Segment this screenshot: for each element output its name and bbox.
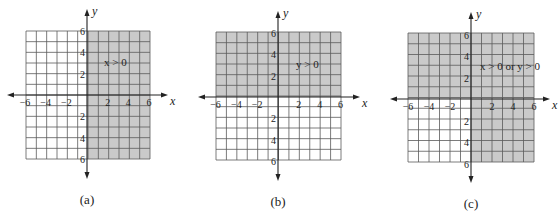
x-tick-label: 4: [126, 97, 131, 108]
x-tick-label: −4: [231, 99, 242, 110]
inequality-graphs-figure: xy−6−4−2246642246x > 0xy−6−4−2246642246y…: [0, 0, 558, 216]
y-tick-label: 2: [271, 71, 276, 82]
y-tick-label: 6: [271, 28, 276, 39]
x-tick-label: 4: [511, 101, 516, 112]
x-axis-label: x: [361, 96, 368, 110]
x-axis-right-arrow-icon: [543, 97, 550, 102]
x-tick-label: −2: [445, 101, 456, 112]
x-tick-label: 2: [490, 101, 495, 112]
inequality-annotation: x > 0: [104, 56, 127, 68]
graph-panel-a: xy−6−4−2246642246x > 0: [7, 4, 176, 179]
x-tick-label: −2: [61, 97, 72, 108]
x-tick-label: −2: [252, 99, 263, 110]
x-tick-label: 6: [532, 101, 537, 112]
y-tick-label: 6: [80, 26, 85, 37]
y-axis-up-arrow-icon: [85, 9, 90, 16]
graphs-canvas: xy−6−4−2246642246x > 0xy−6−4−2246642246y…: [0, 0, 558, 216]
panel-label-c: (c): [464, 196, 478, 212]
x-axis-left-arrow-icon: [390, 97, 397, 102]
y-axis-label: y: [282, 6, 289, 20]
y-tick-label: 4: [271, 49, 276, 60]
y-axis-down-arrow-icon: [469, 176, 474, 183]
graph-panel-b: xy−6−4−2246642246y > 0: [198, 6, 368, 181]
x-tick-label: 2: [296, 99, 301, 110]
y-axis-up-arrow-icon: [276, 11, 281, 18]
y-tick-label: 6: [80, 154, 85, 165]
x-axis-left-arrow-icon: [7, 93, 14, 98]
x-tick-label: −6: [20, 97, 31, 108]
x-tick-label: 4: [317, 99, 322, 110]
y-tick-label: 4: [464, 51, 469, 62]
y-axis-down-arrow-icon: [85, 172, 90, 179]
x-tick-label: −6: [210, 99, 221, 110]
x-axis-right-arrow-icon: [353, 95, 360, 100]
y-tick-label: 2: [464, 73, 469, 84]
inequality-annotation: x > 0 or y > 0: [480, 60, 541, 72]
x-tick-label: 6: [147, 97, 152, 108]
y-tick-label: 6: [271, 156, 276, 167]
graph-panel-c: xy−6−4−2246642246x > 0 or y > 0: [390, 7, 558, 183]
y-tick-label: 4: [464, 137, 469, 148]
y-tick-label: 6: [464, 159, 469, 170]
y-tick-label: 2: [80, 111, 85, 122]
x-tick-label: 2: [105, 97, 110, 108]
y-axis-label: y: [91, 4, 98, 18]
x-tick-label: −4: [40, 97, 51, 108]
x-axis-left-arrow-icon: [198, 95, 205, 100]
y-tick-label: 4: [80, 133, 85, 144]
panel-label-b: (b): [270, 194, 285, 210]
y-tick-label: 4: [80, 47, 85, 58]
y-tick-label: 4: [271, 135, 276, 146]
y-tick-label: 2: [464, 116, 469, 127]
y-tick-label: 6: [464, 30, 469, 41]
y-axis-up-arrow-icon: [469, 12, 474, 19]
x-tick-label: −6: [403, 101, 414, 112]
x-axis-label: x: [551, 98, 558, 112]
x-axis-right-arrow-icon: [161, 93, 168, 98]
inequality-annotation: y > 0: [296, 58, 319, 70]
panel-label-a: (a): [80, 192, 94, 208]
x-axis-label: x: [169, 94, 176, 108]
x-tick-label: −4: [424, 101, 435, 112]
y-tick-label: 2: [271, 113, 276, 124]
x-tick-label: 6: [338, 99, 343, 110]
y-axis-down-arrow-icon: [276, 174, 281, 181]
y-tick-label: 2: [80, 69, 85, 80]
y-axis-label: y: [475, 7, 482, 21]
